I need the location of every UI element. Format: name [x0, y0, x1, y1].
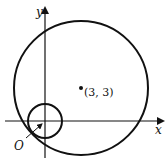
y-axis-label: y: [35, 5, 43, 19]
origin-label: O: [14, 139, 24, 153]
coordinate-diagram: y x O (3, 3): [0, 0, 166, 160]
x-axis-label: x: [155, 123, 162, 137]
center-label: (3, 3): [84, 86, 114, 99]
center-point: [79, 86, 83, 90]
